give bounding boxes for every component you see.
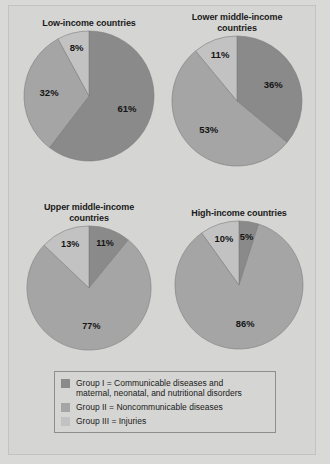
- pie-title-line1: High-income countries: [191, 208, 286, 218]
- pie-slice-label: 36%: [264, 79, 284, 90]
- legend-label-group-iii: Group III = Injuries: [76, 416, 146, 426]
- pie-svg-high-income: 5%86%10%: [173, 219, 305, 351]
- group-iii-swatch: [61, 417, 70, 426]
- pie-title-line2: countries: [69, 213, 109, 223]
- pie-title-line1: Upper middle-income: [44, 202, 134, 212]
- legend-label-group-i: Group I = Communicable diseases and mate…: [76, 378, 242, 398]
- pie-graphic-high-income: 5%86%10%: [173, 219, 305, 351]
- pie-title-high-income: High-income countries: [169, 208, 309, 219]
- pie-title-line1: Lower middle-income: [192, 12, 283, 22]
- legend-item-group-i: Group I = Communicable diseases and mate…: [61, 378, 275, 398]
- pie-slice-label: 32%: [40, 87, 60, 98]
- pie-slice-label: 11%: [211, 49, 230, 60]
- pie-slice-label: 77%: [82, 321, 100, 331]
- pie-title-low-income: Low-income countries: [19, 18, 159, 29]
- pie-slice-label: 5%: [240, 232, 254, 242]
- pie-slice-label: 8%: [70, 42, 84, 53]
- pie-graphic-low-income: 61%32%8%: [22, 29, 156, 163]
- figure-panel: Low-income countries 61%32%8% Lower midd…: [8, 5, 316, 455]
- pie-title-upper-middle-income: Upper middle-income countries: [19, 202, 159, 224]
- pie-slice-label: 13%: [61, 239, 79, 249]
- pie-slice-label: 11%: [96, 238, 114, 248]
- group-ii-swatch: [61, 403, 70, 412]
- legend-label-line1: Group I = Communicable diseases and: [76, 378, 223, 388]
- pie-svg-low-income: 61%32%8%: [22, 29, 156, 163]
- pie-title-lower-middle-income: Lower middle-income countries: [167, 12, 307, 34]
- legend-item-group-ii: Group II = Noncommunicable diseases: [61, 402, 275, 412]
- pie-svg-upper-middle-income: 11%77%13%: [25, 224, 153, 352]
- pie-chart-upper-middle-income: Upper middle-income countries 11%77%13%: [19, 202, 159, 352]
- legend-label-group-ii: Group II = Noncommunicable diseases: [76, 402, 223, 412]
- pie-slice-label: 10%: [215, 234, 234, 244]
- legend-item-group-iii: Group III = Injuries: [61, 416, 275, 426]
- pie-title-line2: countries: [217, 23, 257, 33]
- pie-title-line1: Low-income countries: [42, 18, 136, 28]
- pie-slice-label: 86%: [236, 319, 255, 329]
- pie-chart-low-income: Low-income countries 61%32%8%: [19, 18, 159, 163]
- legend-box: Group I = Communicable diseases and mate…: [54, 371, 276, 433]
- pie-chart-lower-middle-income: Lower middle-income countries 36%53%11%: [167, 12, 307, 168]
- pie-graphic-upper-middle-income: 11%77%13%: [25, 224, 153, 352]
- legend-label-line2: maternal, neonatal, and nutritional diso…: [76, 388, 242, 398]
- pie-slice-label: 61%: [117, 103, 137, 114]
- pie-slice-label: 53%: [199, 124, 219, 135]
- pie-svg-lower-middle-income: 36%53%11%: [170, 34, 304, 168]
- group-i-swatch: [61, 379, 70, 388]
- pie-graphic-lower-middle-income: 36%53%11%: [170, 34, 304, 168]
- pie-chart-high-income: High-income countries 5%86%10%: [169, 208, 309, 351]
